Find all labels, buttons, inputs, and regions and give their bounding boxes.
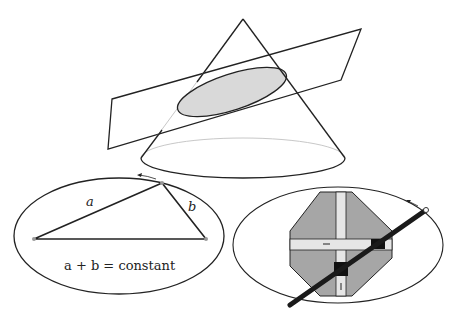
cone-base-back xyxy=(141,138,345,158)
label-b: b xyxy=(188,199,196,214)
label-a: a xyxy=(86,194,94,209)
pencil-point-right xyxy=(424,208,429,213)
arrowhead-icon xyxy=(137,173,142,177)
cone-base-front xyxy=(141,158,345,178)
equation-label: a + b = constant xyxy=(64,258,176,273)
cone-figure xyxy=(108,19,361,178)
ellipse-left xyxy=(14,178,224,294)
string-triangle xyxy=(34,183,206,239)
section-ellipse xyxy=(172,57,292,126)
arrow-direction xyxy=(139,175,156,179)
string-construction-figure: a b a + b = constant xyxy=(14,173,224,294)
cone-edge-left-lower xyxy=(141,130,162,158)
trammel-figure xyxy=(233,187,443,305)
focus-right xyxy=(204,237,208,241)
pencil-point xyxy=(160,181,164,185)
focus-left xyxy=(32,237,36,241)
diagram-canvas: a b a + b = constant xyxy=(0,0,458,319)
